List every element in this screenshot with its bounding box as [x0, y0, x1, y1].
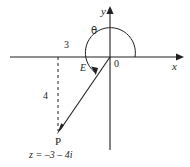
arc-direction-label: E [80, 63, 86, 73]
theta-angle-label: θ [91, 26, 97, 36]
x-axis-label: x [172, 61, 177, 72]
angle-arc-arrowhead [91, 67, 98, 75]
complex-number-equation: z = –3 – 4i [29, 150, 72, 160]
y-axis-label: y [101, 6, 106, 17]
argand-diagram-figure: y x 0 θ E 3 4 P z = –3 – 4i [0, 0, 190, 167]
origin-label: 0 [114, 59, 119, 69]
real-part-measurement-label: 3 [64, 40, 69, 50]
x-axis [10, 53, 184, 60]
y-axis-arrowhead [106, 6, 113, 14]
x-axis-arrowhead [176, 53, 184, 60]
point-p-label: P [55, 136, 61, 147]
imaginary-part-measurement-label: 4 [43, 91, 48, 101]
